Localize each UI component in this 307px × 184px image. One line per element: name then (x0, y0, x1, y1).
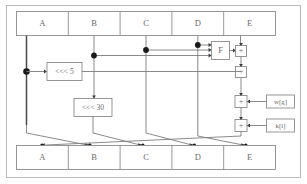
junction-d-tap (195, 42, 201, 48)
nonlinear-function-box: F (212, 42, 230, 60)
round-constant-source: k[i] (267, 119, 295, 132)
adder-f-label: + (239, 46, 244, 55)
output-register-cell-e-label: E (247, 152, 252, 162)
output-register: A B C D E (17, 146, 276, 170)
output-register-cell-c-label: C (143, 152, 149, 162)
output-register-cell-b-label: B (91, 152, 97, 162)
adder-w: + (235, 96, 247, 108)
input-register-cell-c-label: C (143, 18, 149, 28)
input-register: A B C D E (17, 12, 276, 36)
diagram-canvas: A B C D E F (0, 0, 307, 184)
nonlinear-function-label: F (218, 45, 223, 55)
output-register-cell-d-label: D (195, 152, 201, 162)
output-register-cell-a-label: A (39, 152, 46, 162)
wire-a-to-output-b (27, 125, 89, 145)
sha1-round-diagram: A B C D E F (0, 0, 307, 184)
rotate-left-30-box: <<< 30 (74, 99, 112, 117)
input-register-cell-d-label: D (195, 18, 201, 28)
rotate-left-30-label: <<< 30 (82, 103, 104, 112)
adder-k-label: + (239, 121, 244, 130)
wire-c-to-output-d (146, 129, 193, 146)
input-register-cell-e-label: E (247, 18, 252, 28)
input-register-cell-b-label: B (91, 18, 97, 28)
message-word-source: w[g] (267, 95, 295, 108)
adder-rot5: + (236, 67, 247, 78)
adder-f: + (236, 46, 247, 57)
junction-c-tap (143, 47, 149, 53)
rotate-left-5-label: <<< 5 (55, 67, 74, 76)
junction-b-tap (91, 53, 97, 59)
round-constant-label: k[i] (275, 122, 285, 130)
adder-w-label: + (239, 97, 244, 106)
rotate-left-5-box: <<< 5 (47, 63, 82, 81)
adder-k: + (235, 120, 247, 132)
message-word-label: w[g] (274, 98, 287, 106)
input-register-cell-a-label: A (39, 18, 46, 28)
